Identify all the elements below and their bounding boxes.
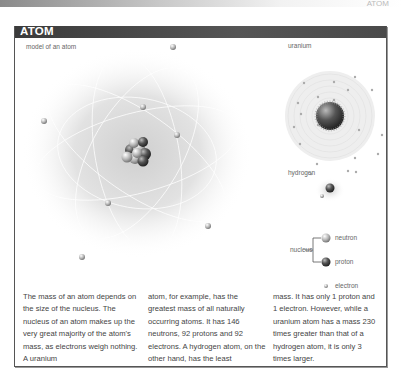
page-corner-label: ATOM <box>367 0 389 8</box>
electron-label: electron <box>335 282 358 289</box>
model-of-atom-label: model of an atom <box>26 43 76 50</box>
atom-illustrations <box>15 38 386 293</box>
top-gradient-band <box>0 0 401 7</box>
particle-legend <box>305 234 331 289</box>
electron-swatch-icon <box>324 284 328 288</box>
panel-header: ATOM <box>15 26 386 38</box>
body-text-column-3: mass. It has only 1 proton and 1 electro… <box>273 291 381 365</box>
hydrogen-atom-diagram <box>315 178 345 202</box>
atom-panel: ATOM <box>14 26 387 367</box>
atom-model-diagram <box>22 44 252 260</box>
hydrogen-label: hydrogen <box>288 169 315 176</box>
panel-title: ATOM <box>20 25 54 37</box>
neutron-label: neutron <box>335 234 357 241</box>
uranium-atom-diagram <box>285 71 386 175</box>
proton-swatch-icon <box>322 258 331 267</box>
nucleus-label: nucleus <box>290 246 312 253</box>
body-text-column-1: The mass of an atom depends on the size … <box>23 291 141 365</box>
uranium-label: uranium <box>288 42 311 49</box>
proton-label: proton <box>335 258 353 265</box>
body-text-column-2: atom, for example, has the greatest mass… <box>148 291 266 365</box>
neutron-swatch-icon <box>322 234 331 243</box>
